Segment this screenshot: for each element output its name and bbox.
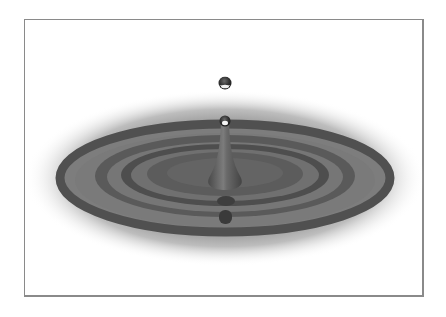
illustration-canvas (0, 0, 446, 317)
reflection-drop-1 (217, 196, 235, 206)
water-drop-illustration (0, 0, 446, 317)
reflection-drop-2 (219, 210, 232, 224)
